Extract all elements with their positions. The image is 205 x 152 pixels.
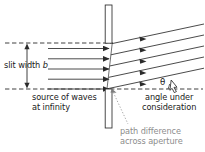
- slit-width-label: slit width b: [4, 61, 48, 71]
- outgoing-ray: [107, 68, 204, 89]
- incoming-rays-group: [48, 49, 109, 90]
- outgoing-rays-group: [107, 24, 204, 89]
- angle-label-line-2: consideration: [142, 103, 196, 113]
- path-difference-label: path difference across aperture: [120, 127, 183, 146]
- theta-symbol-label: θ: [160, 78, 165, 88]
- path-difference-line-2: across aperture: [120, 137, 183, 147]
- aperture-plate-lower: [105, 89, 112, 128]
- theta-angle-arc: [168, 84, 170, 89]
- outgoing-ray: [112, 24, 204, 44]
- angle-callout-pointer-icon: [170, 80, 177, 93]
- outgoing-ray: [111, 35, 204, 55]
- source-of-waves-label: source of waves at infinity: [32, 93, 97, 112]
- outgoing-ray: [110, 46, 204, 66]
- source-label-line-2: at infinity: [32, 103, 97, 113]
- single-slit-diffraction-figure: slit width b source of waves at infinity…: [0, 0, 205, 152]
- slit-width-label-text: slit width: [4, 60, 43, 70]
- path-difference-leader-line: [110, 89, 128, 124]
- outgoing-ray-arrowheads: [140, 36, 147, 86]
- slit-width-symbol: b: [43, 60, 48, 70]
- aperture-plate-upper: [105, 5, 112, 43]
- path-difference-line: [107, 44, 112, 89]
- angle-under-consideration-label: angle under consideration: [142, 93, 196, 112]
- outgoing-ray: [108, 57, 204, 77]
